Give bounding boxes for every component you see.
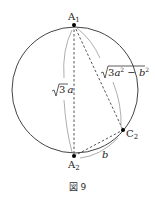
figure-caption: 図 9 bbox=[0, 180, 155, 193]
label-a1: A1 bbox=[68, 12, 80, 24]
brace-sqrt3a-upper bbox=[64, 30, 72, 78]
brace-long-upper bbox=[77, 28, 100, 58]
circle bbox=[12, 27, 138, 153]
label-sqrt3a: 3a bbox=[59, 85, 73, 95]
label-c2: C2 bbox=[126, 129, 138, 141]
label-b: b bbox=[102, 150, 108, 160]
label-sqrt-3a2-b2: 3a2 − b2 bbox=[108, 67, 149, 78]
label-a2: A2 bbox=[68, 160, 80, 172]
point-c2 bbox=[121, 128, 125, 132]
brace-sqrt3a-lower bbox=[64, 100, 72, 152]
brace-long-lower bbox=[113, 82, 121, 127]
point-a2 bbox=[72, 154, 76, 158]
